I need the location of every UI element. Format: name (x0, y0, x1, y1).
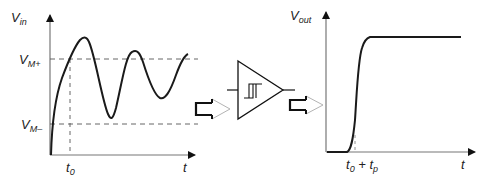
output-plot: Vout t0 + tp t (290, 8, 475, 174)
input-plot: Vin VM+ VM– t0 t (11, 10, 198, 177)
flow-arrow-input-icon (196, 99, 230, 119)
output-x-label: t (461, 157, 466, 172)
threshold-low-label: VM– (21, 117, 43, 134)
flow-arrow-output-icon (290, 96, 323, 114)
diagram-canvas: Vin VM+ VM– t0 t (0, 0, 491, 184)
output-signal-curve (327, 37, 461, 152)
t0-label: t0 (66, 160, 75, 177)
input-y-label: Vin (11, 10, 27, 27)
input-x-label: t (183, 160, 188, 175)
comparator-triangle (238, 61, 283, 119)
t0-plus-tp-label: t0 + tp (346, 157, 378, 174)
output-y-label: Vout (290, 8, 312, 25)
threshold-high-label: VM+ (19, 52, 40, 69)
comparator-symbol (227, 61, 295, 119)
input-signal-curve (51, 38, 188, 155)
